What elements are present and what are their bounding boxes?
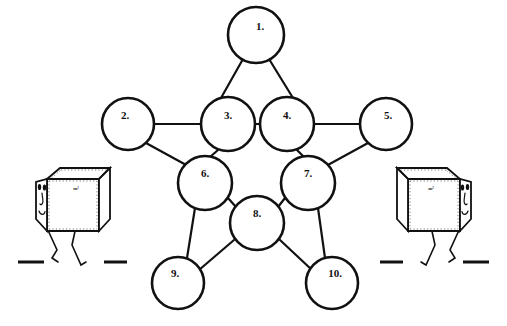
- node-9-label: 9.: [171, 267, 180, 279]
- left-cube-body: m²: [47, 168, 110, 231]
- node-8[interactable]: 8.: [230, 196, 284, 250]
- node-group: 1. 2. 3. 4. 5. 6.: [102, 7, 412, 309]
- node-6[interactable]: 6.: [178, 156, 232, 210]
- node-2-label: 2.: [121, 109, 130, 121]
- diagram-svg: 1. 2. 3. 4. 5. 6.: [0, 0, 507, 326]
- eye-right: [466, 184, 469, 190]
- edge-8-10: [280, 240, 312, 270]
- edge-7-10: [318, 208, 325, 258]
- right-cube-character[interactable]: m²: [380, 168, 489, 265]
- node-4[interactable]: 4.: [260, 97, 314, 151]
- edge-5-7: [326, 143, 368, 166]
- eye-left: [461, 184, 464, 190]
- edge-8-9: [199, 240, 234, 270]
- node-4-label: 4.: [283, 109, 292, 121]
- node-2[interactable]: 2.: [102, 98, 154, 150]
- left-cube-face-text: m²: [73, 186, 79, 191]
- node-3-label: 3.: [224, 109, 233, 121]
- right-cube-face-text: m²: [428, 186, 434, 191]
- node-9[interactable]: 9.: [152, 257, 204, 309]
- right-cube-body: m²: [397, 168, 460, 231]
- node-7-label: 7.: [304, 167, 313, 179]
- eye-right: [43, 184, 46, 190]
- node-5[interactable]: 5.: [360, 98, 412, 150]
- node-10-label: 10.: [328, 267, 342, 279]
- node-3[interactable]: 3.: [201, 97, 255, 151]
- right-cube-face: [460, 179, 471, 231]
- node-10[interactable]: 10.: [306, 257, 358, 309]
- node-6-label: 6.: [201, 167, 210, 179]
- eye-left: [38, 184, 41, 190]
- node-1-label: 1.: [256, 20, 265, 32]
- left-cube-face: [36, 179, 47, 231]
- node-7[interactable]: 7.: [281, 156, 335, 210]
- edge-2-6: [146, 143, 188, 166]
- edge-6-9: [187, 208, 195, 258]
- figure-canvas: 1. 2. 3. 4. 5. 6.: [0, 0, 507, 326]
- edge-1-4: [269, 59, 293, 98]
- node-5-label: 5.: [384, 109, 393, 121]
- node-1[interactable]: 1.: [228, 7, 284, 63]
- node-8-label: 8.: [253, 207, 262, 219]
- edge-1-3: [221, 59, 243, 98]
- left-cube-character[interactable]: m²: [18, 168, 127, 265]
